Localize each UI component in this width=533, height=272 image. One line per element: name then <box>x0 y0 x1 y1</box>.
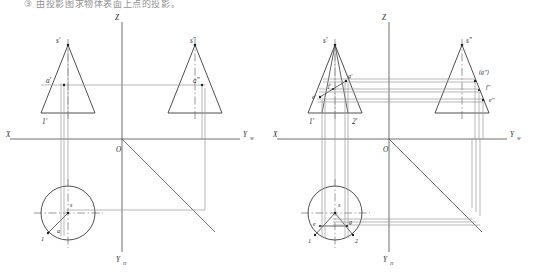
label-e-prime: e' <box>312 93 317 100</box>
label-origin: O <box>383 146 389 154</box>
label-e-top: e <box>313 220 316 227</box>
label-x-axis: X <box>5 131 11 139</box>
label-g-prime: g' <box>348 72 353 79</box>
label-a-prime: a' <box>46 77 52 85</box>
label-s-top: s <box>70 201 73 208</box>
label-1-top: 1 <box>41 235 44 242</box>
label-a-double-prime: a" <box>193 77 201 85</box>
point-g-top <box>346 225 348 227</box>
label-a-top: a <box>57 227 60 234</box>
point-e-double-prime <box>482 99 484 101</box>
label-yh-axis: Y <box>383 256 388 264</box>
point-f-prime <box>332 88 334 90</box>
label-yh-subscript: H <box>389 261 394 266</box>
point-1-top <box>47 232 49 234</box>
labels-left: Z X Y W Y H O s' a' 1' s" a" s a 1 <box>5 14 255 266</box>
label-f-double-prime: f" <box>486 83 491 90</box>
point-1-top <box>314 234 316 236</box>
label-g-double-prime: (g") <box>479 68 489 76</box>
label-1-prime: 1' <box>309 118 315 126</box>
label-yh-subscript: H <box>122 261 127 266</box>
side-view-cone <box>435 39 489 120</box>
label-yw-subscript: W <box>517 136 522 141</box>
label-yw-axis: Y <box>243 131 248 139</box>
projection-lines-right <box>317 48 483 238</box>
point-a-double-prime <box>201 84 203 86</box>
point-a-prime <box>63 84 65 86</box>
label-2-top: 2 <box>355 237 358 244</box>
point-s-prime <box>334 44 337 47</box>
label-yh-axis: Y <box>116 256 121 264</box>
point-s-prime <box>67 44 70 47</box>
label-s-top: s <box>338 201 341 208</box>
label-s-prime: s' <box>56 37 61 45</box>
point-e-top <box>319 225 321 227</box>
label-s-prime: s' <box>323 37 328 45</box>
point-g-double-prime <box>474 80 476 82</box>
labels-right: Z X Y W Y H O s' g' f' e' 1' 2' s" (g") … <box>272 14 522 266</box>
projection-lines-left <box>41 48 205 236</box>
axis-system-left <box>10 22 240 252</box>
miter-line-45 <box>389 139 482 232</box>
point-s-top <box>67 212 69 214</box>
label-1-prime: 1' <box>42 118 48 126</box>
point-g-prime <box>345 80 347 82</box>
label-x-axis: X <box>272 131 278 139</box>
drawing-page: ③ 由投影图求物体表面上点的投影。 <box>0 0 533 272</box>
miter-line-45 <box>122 139 215 232</box>
label-s-double-prime: s" <box>190 37 197 45</box>
label-yw-axis: Y <box>510 131 515 139</box>
label-2-prime: 2' <box>352 118 358 126</box>
axis-system-right <box>277 22 507 252</box>
label-f-prime: f' <box>328 82 332 89</box>
label-g-top: g <box>349 218 352 225</box>
label-yw-subscript: W <box>250 136 255 141</box>
point-s-double-prime <box>461 44 464 47</box>
label-1-top: 1 <box>308 237 311 244</box>
point-s-top <box>334 212 336 214</box>
point-f-double-prime <box>478 89 480 91</box>
label-e-double-prime: e" <box>489 96 495 103</box>
point-e-prime <box>319 96 321 98</box>
point-2-top <box>352 234 354 236</box>
label-s-double-prime: s" <box>466 37 473 45</box>
label-origin: O <box>116 146 122 154</box>
figure-left: Z X Y W Y H O s' a' 1' s" a" s a 1 <box>0 0 267 272</box>
label-z-axis: Z <box>382 14 387 22</box>
figure-right: Z X Y W Y H O s' g' f' e' 1' 2' s" (g") … <box>267 0 533 272</box>
label-z-axis: Z <box>115 14 120 22</box>
